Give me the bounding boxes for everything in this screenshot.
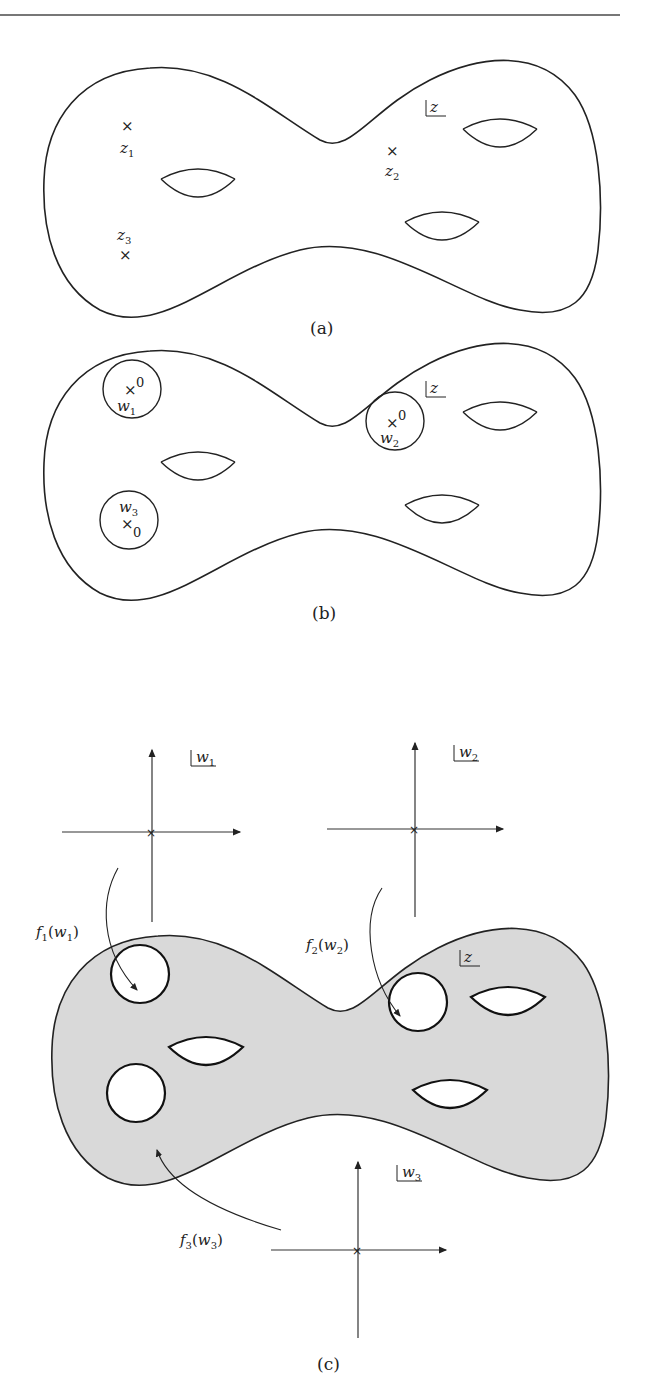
svg-text:×: ×: [409, 823, 419, 837]
svg-text:z3: z3: [116, 226, 131, 246]
removed-disc-2: [389, 973, 447, 1031]
disc-w3: w3 × 0: [100, 491, 158, 549]
local-plane-w1: × w1: [62, 748, 240, 922]
svg-text:0: 0: [398, 408, 406, 423]
plane-label-z: z: [426, 98, 446, 116]
svg-text:×: ×: [146, 826, 156, 840]
caption-c: (c): [317, 1354, 340, 1374]
caption-a: (a): [310, 318, 333, 338]
removed-disc-1: [111, 945, 169, 1003]
panel-c: z × w1 × w2 × w3: [35, 743, 608, 1374]
svg-text:×: ×: [386, 142, 399, 160]
svg-text:z2: z2: [384, 162, 399, 182]
map-label-f1: f1(w1): [35, 923, 79, 943]
svg-text:w3: w3: [402, 1163, 421, 1183]
panel-a: z × z1 × z2 z3 × (a): [44, 60, 601, 338]
handle-hole: [405, 212, 479, 240]
svg-text:z1: z1: [119, 139, 134, 159]
svg-text:z: z: [429, 98, 438, 116]
handle-hole: [161, 452, 235, 480]
marked-point-z3: z3 ×: [116, 226, 132, 264]
marked-point-z2: × z2: [384, 142, 399, 182]
surface-outline: [44, 60, 601, 317]
caption-b: (b): [312, 603, 336, 623]
disc-w1: × 0 w1: [103, 360, 161, 418]
local-plane-w2: × w2: [327, 743, 503, 917]
handle-hole: [405, 495, 479, 523]
svg-text:×: ×: [121, 117, 134, 135]
svg-text:0: 0: [136, 375, 144, 390]
svg-text:×: ×: [119, 246, 132, 264]
svg-text:×: ×: [352, 1244, 362, 1258]
handle-hole: [463, 119, 537, 147]
svg-text:w1: w1: [117, 397, 136, 417]
plane-label-z: z: [426, 379, 446, 397]
removed-disc-3: [107, 1064, 165, 1122]
svg-text:z: z: [429, 379, 438, 397]
svg-text:×: ×: [121, 515, 134, 533]
panel-b: z × 0 w1 × 0 w2 w3 × 0 (b): [44, 343, 601, 623]
svg-text:0: 0: [133, 525, 141, 540]
svg-text:w2: w2: [380, 429, 399, 449]
map-label-f3: f3(w3): [179, 1231, 223, 1251]
svg-text:w2: w2: [459, 743, 478, 763]
marked-point-z1: × z1: [119, 117, 134, 159]
handle-hole: [161, 169, 235, 197]
svg-text:z: z: [463, 948, 472, 966]
handle-hole: [463, 402, 537, 430]
riemann-surface-figure: z × z1 × z2 z3 × (a) z × 0 w1: [0, 0, 648, 1387]
disc-w2: × 0 w2: [366, 392, 424, 450]
map-label-f2: f2(w2): [305, 936, 349, 956]
svg-text:w1: w1: [196, 748, 215, 768]
local-plane-w3: × w3: [271, 1162, 446, 1338]
